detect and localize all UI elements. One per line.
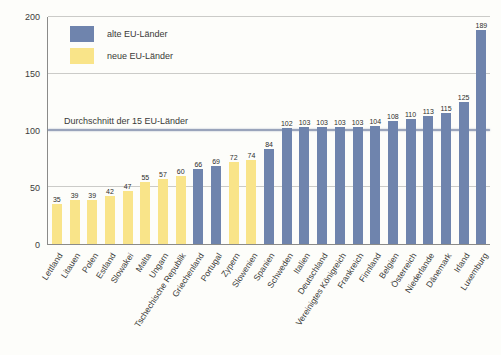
x-axis-labels: LettlandLitauenPolenEstlandSlowakeiMalta…: [47, 247, 490, 355]
bar-value-label: 103: [299, 119, 311, 126]
bar-chart-figure: 3539394247555760666972748410210310310310…: [0, 0, 501, 355]
bar-slot: 35: [48, 17, 66, 244]
bar-alte: [193, 169, 203, 244]
bar-value-label: 47: [124, 183, 132, 190]
bar-alte: [317, 127, 327, 244]
bar-alte: [264, 149, 274, 244]
bar-value-label: 60: [177, 168, 185, 175]
bar-neue: [52, 204, 62, 244]
bar-slot: 113: [419, 17, 437, 244]
bar-value-label: 39: [88, 192, 96, 199]
bar-alte: [406, 119, 416, 244]
bar-value-label: 103: [352, 119, 364, 126]
bar-alte: [353, 127, 363, 244]
bar-value-label: 74: [248, 152, 256, 159]
bar-neue: [87, 200, 97, 244]
bar-neue: [229, 162, 239, 244]
x-label-slot: Slowenien: [242, 247, 260, 355]
x-label-slot: Luxemburg: [472, 247, 490, 355]
bar-value-label: 110: [405, 111, 416, 118]
x-label-slot: Zypern: [224, 247, 242, 355]
bar-value-label: 39: [71, 192, 79, 199]
bar-slot: 102: [278, 17, 296, 244]
x-label-slot: Slowakei: [118, 247, 136, 355]
bar-alte: [370, 126, 380, 244]
bar-slot: 74: [243, 17, 261, 244]
x-label-slot: Österreich: [401, 247, 419, 355]
bar-value-label: 57: [159, 171, 167, 178]
x-axis-label: Lettland: [39, 251, 64, 282]
x-label-slot: Estland: [100, 247, 118, 355]
bar-neue: [123, 191, 133, 244]
bar-neue: [140, 182, 150, 244]
bar-slot: 60: [172, 17, 190, 244]
bar-slot: 110: [402, 17, 420, 244]
x-label-slot: Schweden: [277, 247, 295, 355]
y-tick-label: 100: [0, 126, 40, 136]
bar-value-label: 103: [316, 119, 328, 126]
bar-slot: 104: [366, 17, 384, 244]
bar-value-label: 108: [387, 113, 399, 120]
bar-neue: [105, 196, 115, 244]
bar-slot: 66: [190, 17, 208, 244]
bar-slot: 69: [207, 17, 225, 244]
x-label-slot: Finnland: [366, 247, 384, 355]
bar-value-label: 102: [281, 120, 293, 127]
bar-value-label: 69: [212, 158, 220, 165]
plot-area: 3539394247555760666972748410210310310310…: [47, 17, 490, 245]
x-label-slot: Frankreich: [348, 247, 366, 355]
x-label-slot: Portugal: [206, 247, 224, 355]
bar-value-label: 115: [440, 105, 451, 112]
bar-value-label: 104: [369, 118, 381, 125]
y-tick-label: 50: [0, 183, 40, 193]
bar-slot: 103: [296, 17, 314, 244]
x-label-slot: Tschechische Republik: [171, 247, 189, 355]
legend-swatch-alte: [70, 26, 94, 42]
bar-value-label: 113: [423, 108, 434, 115]
x-label-slot: Lettland: [47, 247, 65, 355]
x-label-slot: Spanien: [260, 247, 278, 355]
bar-value-label: 35: [53, 196, 61, 203]
bar-alte: [299, 127, 309, 244]
legend-swatch-neue: [70, 48, 94, 64]
legend-label: neue EU-Länder: [107, 51, 173, 61]
y-tick-label: 0: [0, 240, 40, 250]
bar-alte: [282, 128, 292, 244]
x-label-slot: Vereinigtes Königreich: [331, 247, 349, 355]
bar-neue: [246, 160, 256, 244]
bar-slot: 125: [455, 17, 473, 244]
bar-alte: [441, 113, 451, 244]
bar-alte: [476, 30, 486, 245]
bar-value-label: 189: [476, 22, 488, 29]
x-label-slot: Niederlande: [419, 247, 437, 355]
x-label-slot: Polen: [82, 247, 100, 355]
bar-slot: 115: [437, 17, 455, 244]
x-label-slot: Belgien: [384, 247, 402, 355]
bar-value-label: 42: [106, 188, 114, 195]
bar-value-label: 55: [141, 174, 149, 181]
bar-alte: [211, 166, 221, 244]
average-line-label: Durchschnitt der 15 EU-Länder: [64, 116, 188, 126]
x-label-slot: Irland: [455, 247, 473, 355]
bar-value-label: 84: [265, 141, 273, 148]
legend-item-alte: alte EU-Länder: [70, 26, 173, 42]
bar-alte: [459, 102, 469, 244]
bar-value-label: 103: [334, 119, 346, 126]
legend-item-neue: neue EU-Länder: [70, 48, 173, 64]
bar-alte: [335, 127, 345, 244]
bar-neue: [70, 200, 80, 244]
bar-value-label: 125: [458, 94, 470, 101]
bar-slot: 103: [313, 17, 331, 244]
x-label-slot: Litauen: [65, 247, 83, 355]
x-label-slot: Dänemark: [437, 247, 455, 355]
bar-value-label: 66: [194, 161, 202, 168]
bar-slot: 84: [260, 17, 278, 244]
bar-slot: 189: [473, 17, 491, 244]
bar-alte: [388, 121, 398, 244]
bar-slot: 103: [331, 17, 349, 244]
bar-slot: 103: [349, 17, 367, 244]
bar-value-label: 72: [230, 154, 238, 161]
bar-neue: [158, 179, 168, 244]
bar-slot: 72: [225, 17, 243, 244]
legend-label: alte EU-Länder: [107, 29, 168, 39]
